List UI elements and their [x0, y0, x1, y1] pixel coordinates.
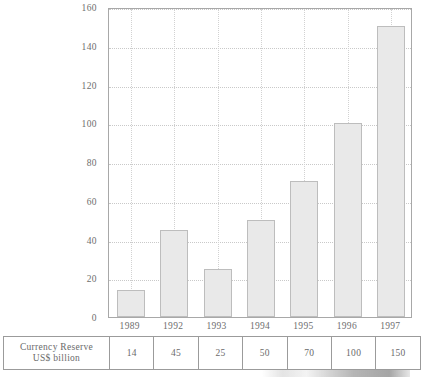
table-cell-1996: 100: [331, 337, 375, 370]
y-tick-label: 80: [87, 158, 97, 168]
y-tick-label: 160: [82, 3, 97, 13]
plot-area: [108, 8, 412, 318]
table-cell-1995: 70: [287, 337, 331, 370]
y-tick-label: 120: [82, 81, 97, 91]
table-cell-1997: 150: [376, 337, 420, 370]
x-tick-label: 1996: [325, 320, 368, 332]
table-cell-1989: 14: [110, 337, 154, 370]
table-row: Currency Reserve US$ billion 14452550701…: [4, 337, 421, 370]
x-tick-label: 1995: [282, 320, 325, 332]
y-tick-label: 40: [87, 236, 97, 246]
table-row-header: Currency Reserve US$ billion: [4, 337, 110, 370]
data-table-container: Currency Reserve US$ billion 14452550701…: [3, 336, 412, 370]
y-tick-label: 0: [92, 313, 97, 323]
y-tick-label: 140: [82, 42, 97, 52]
x-tick-label: 1993: [195, 320, 238, 332]
row-header-line-2: US$ billion: [4, 353, 109, 364]
y-axis: 020406080100120140160: [0, 0, 104, 334]
bar-1996: [334, 123, 362, 317]
row-header-line-1: Currency Reserve: [4, 342, 109, 353]
bars-layer: [109, 9, 411, 317]
x-tick-label: 1994: [238, 320, 281, 332]
scan-smudge-artifact: [262, 370, 410, 377]
table-cell-1994: 50: [243, 337, 287, 370]
table-cell-1992: 45: [154, 337, 198, 370]
x-tick-label: 1997: [369, 320, 412, 332]
bar-1997: [377, 26, 405, 317]
bar-1993: [204, 269, 232, 317]
x-axis: 1989199219931994199519961997: [108, 320, 412, 334]
y-tick-label: 60: [87, 197, 97, 207]
table-cell-1993: 25: [198, 337, 242, 370]
bar-1989: [117, 290, 145, 317]
bar-1995: [290, 181, 318, 317]
x-tick-label: 1992: [151, 320, 194, 332]
y-tick-label: 20: [87, 274, 97, 284]
bar-chart-figure: 020406080100120140160 198919921993199419…: [0, 0, 421, 334]
bar-1992: [160, 230, 188, 317]
y-tick-label: 100: [82, 119, 97, 129]
data-table: Currency Reserve US$ billion 14452550701…: [3, 336, 421, 370]
x-tick-label: 1989: [108, 320, 151, 332]
bar-1994: [247, 220, 275, 317]
